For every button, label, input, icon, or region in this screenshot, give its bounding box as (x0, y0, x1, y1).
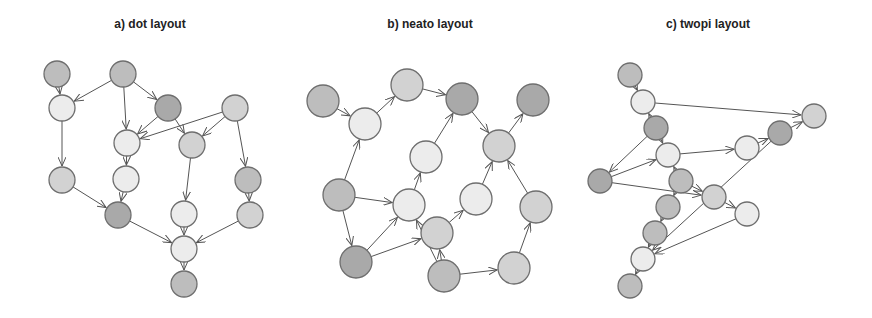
edge-arrow (186, 158, 191, 200)
edge-arrow (203, 117, 226, 136)
graph-node (460, 183, 492, 215)
graph-node (222, 95, 248, 121)
edge-arrow (472, 112, 489, 133)
graph-node (49, 167, 75, 193)
graph-node (155, 95, 181, 121)
graph-node (702, 185, 726, 209)
graph-node (768, 121, 792, 145)
edge-arrow (636, 270, 638, 275)
edge-arrow (508, 161, 528, 194)
graph-node (393, 189, 425, 221)
graph-node (171, 201, 197, 227)
graph-node (349, 108, 381, 140)
graph-node (105, 202, 131, 228)
graph-node (171, 271, 197, 297)
edge-arrow (758, 138, 768, 143)
edge-arrow (460, 270, 497, 274)
graph-node (517, 84, 549, 116)
edge-arrow (73, 187, 106, 208)
graph-node (631, 90, 655, 114)
edge-arrow (611, 160, 656, 177)
edge-arrow (133, 82, 156, 100)
edge-arrow (635, 86, 637, 91)
graph-node (446, 83, 478, 115)
edge-arrow (249, 193, 250, 201)
graph-node (421, 217, 453, 249)
edge-arrow (680, 149, 734, 154)
graph-node (618, 63, 642, 87)
edge-arrow (509, 114, 523, 133)
graph-node (669, 169, 693, 193)
edge-arrow (440, 250, 442, 260)
graph-node (656, 143, 680, 167)
graph-node (179, 132, 205, 158)
graph-node (802, 104, 826, 128)
graph-node (618, 274, 642, 298)
edge-arrow (237, 121, 245, 166)
graph-canvas (0, 0, 872, 318)
graph-node (340, 246, 372, 278)
edge-arrow (449, 210, 463, 222)
graph-node (44, 61, 70, 87)
edge-arrow (371, 239, 421, 257)
edge-arrow (130, 221, 172, 243)
edge-arrow (661, 139, 663, 143)
edge-arrow (423, 89, 446, 95)
edge-arrow (355, 197, 392, 202)
graph-node (323, 179, 355, 211)
edge-arrow (482, 162, 492, 185)
edge-arrow (692, 186, 703, 191)
edge-arrow (609, 136, 647, 172)
edge-arrow (367, 217, 398, 250)
edge-arrow (138, 116, 159, 133)
graph-node (114, 130, 140, 156)
graph-node (588, 169, 612, 193)
graph-node (428, 260, 460, 292)
edge-arrow (140, 112, 222, 139)
edge-arrow (377, 97, 395, 114)
edge-arrow (196, 221, 238, 243)
graph-node (643, 221, 667, 245)
graph-node (631, 247, 655, 271)
graph-node (656, 195, 680, 219)
graph-node (410, 141, 442, 173)
graph-node (307, 85, 339, 117)
graph-node (735, 202, 759, 226)
graph-node (391, 69, 423, 101)
edge-arrow (519, 223, 530, 253)
edge-arrow (434, 113, 453, 143)
edge-arrow (124, 87, 126, 129)
graph-node (113, 166, 139, 192)
edge-arrow (345, 140, 360, 180)
graph-node (110, 61, 136, 87)
graph-node (237, 202, 263, 228)
edge-arrow (725, 203, 736, 209)
graph-node (735, 136, 759, 160)
graph-node (644, 116, 668, 140)
edge-arrow (791, 122, 803, 128)
edge-arrow (121, 192, 123, 202)
edge-arrow (59, 87, 60, 94)
edge-arrow (337, 109, 350, 116)
graph-node (520, 191, 552, 223)
nodes-layer (44, 61, 826, 298)
graph-node (49, 95, 75, 121)
graph-node (235, 167, 261, 193)
graph-node (498, 252, 530, 284)
edge-arrow (74, 80, 111, 101)
edge-arrow (343, 211, 352, 246)
graph-node (171, 236, 197, 262)
graph-node (483, 130, 515, 162)
edge-arrow (414, 173, 420, 190)
edge-arrow (655, 103, 801, 115)
